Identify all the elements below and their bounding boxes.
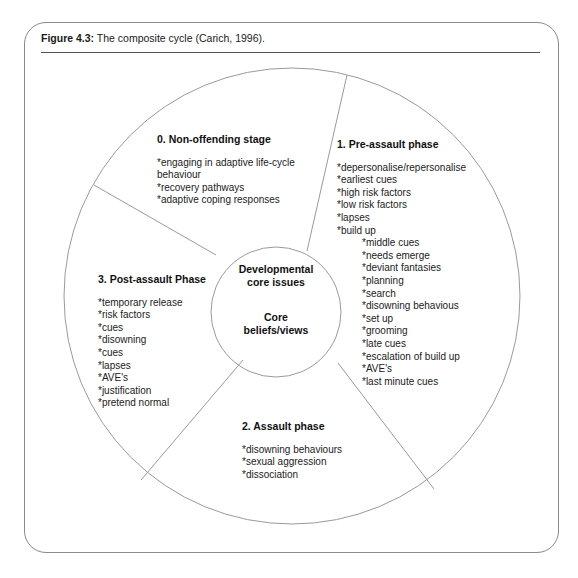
center-line: Core — [226, 311, 326, 324]
segment-title: 0. Non-offending stage — [157, 133, 295, 146]
sub-list-item: *planning — [337, 275, 466, 288]
sub-list-item: *last minute cues — [337, 376, 466, 389]
segment-post-assault-phase: 3. Post-assault Phase *temporary release… — [98, 273, 206, 410]
sub-list-item: *deviant fantasies — [337, 262, 466, 275]
segment-non-offending-stage: 0. Non-offending stage *engaging in adap… — [157, 133, 295, 207]
sub-list-item: *set up — [337, 313, 466, 326]
list-item: behaviour — [157, 169, 295, 182]
center-line: beliefs/views — [226, 324, 326, 337]
list-item: *dissociation — [242, 469, 342, 482]
list-item: *lapses — [337, 212, 466, 225]
sub-list-item: *AVE's — [337, 363, 466, 376]
list-item: *lapses — [98, 360, 206, 373]
list-item: *earliest cues — [337, 174, 466, 187]
list-item: *cues — [98, 322, 206, 335]
sub-list-item: *middle cues — [337, 237, 466, 250]
sub-list-item: *needs emerge — [337, 250, 466, 263]
center-line: Developmental — [226, 263, 326, 276]
list-item: *depersonalise/repersonalise — [337, 162, 466, 175]
list-item: *AVE's — [98, 372, 206, 385]
list-item: *disowning behaviours — [242, 444, 342, 457]
list-item: *high risk factors — [337, 187, 466, 200]
segment-assault-phase: 2. Assault phase *disowning behaviours *… — [242, 420, 342, 481]
segment-title: 2. Assault phase — [242, 420, 342, 433]
segment-title: 3. Post-assault Phase — [98, 273, 206, 286]
cycle-diagram — [0, 0, 578, 578]
sub-list-item: *escalation of build up — [337, 351, 466, 364]
center-core-issues: Developmental core issues — [226, 263, 326, 289]
list-item: *sexual aggression — [242, 456, 342, 469]
sub-list-item: *search — [337, 288, 466, 301]
center-core-beliefs: Core beliefs/views — [226, 311, 326, 337]
list-item: *pretend normal — [98, 397, 206, 410]
list-item: *adaptive coping responses — [157, 194, 295, 207]
sub-list-item: *late cues — [337, 338, 466, 351]
list-item: *temporary release — [98, 297, 206, 310]
segment-pre-assault-phase: 1. Pre-assault phase *depersonalise/repe… — [337, 138, 466, 388]
list-item: *build up — [337, 225, 466, 238]
list-item: *recovery pathways — [157, 182, 295, 195]
list-item: *disowning — [98, 334, 206, 347]
sub-list-item: *disowning behavious — [337, 300, 466, 313]
list-item: *low risk factors — [337, 199, 466, 212]
list-item: *cues — [98, 347, 206, 360]
center-line: core issues — [226, 276, 326, 289]
list-item: *risk factors — [98, 309, 206, 322]
list-item: *justification — [98, 385, 206, 398]
list-item: *engaging in adaptive life-cycle — [157, 157, 295, 170]
segment-title: 1. Pre-assault phase — [337, 138, 466, 151]
sub-list-item: *grooming — [337, 325, 466, 338]
